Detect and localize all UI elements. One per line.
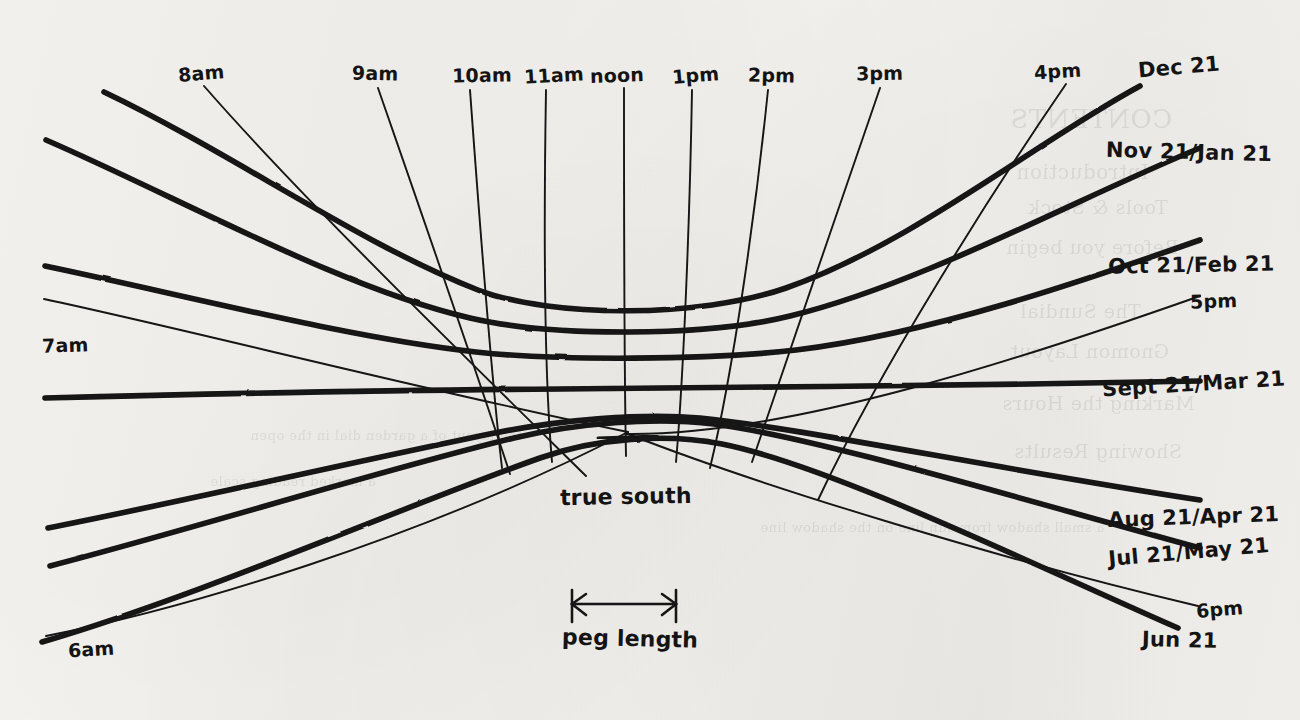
declination-curve-sept21-mar21[interactable] xyxy=(45,381,1200,398)
hour-line-9am[interactable] xyxy=(378,88,510,474)
declination-label-jun-21: Jun 21 xyxy=(1142,627,1218,653)
sundial-diagram-page: CONTENTSIntroductionTools & StockBefore … xyxy=(0,0,1300,720)
hour-line-7am[interactable] xyxy=(44,299,628,432)
hour-line-2pm[interactable] xyxy=(710,90,768,468)
hour-label-4pm: 4pm xyxy=(1033,59,1081,84)
hour-label-noon: noon xyxy=(590,63,645,87)
hour-label-6pm: 6pm xyxy=(1195,596,1244,622)
hour-line-10am[interactable] xyxy=(470,90,502,468)
hour-line-4pm[interactable] xyxy=(818,84,1066,500)
hour-line-8am[interactable] xyxy=(204,86,586,476)
diagram-ink xyxy=(0,0,1300,720)
hour-label-6am: 6am xyxy=(67,637,115,662)
declination-curve-group xyxy=(42,86,1200,642)
true-south-label: true south xyxy=(560,483,692,510)
hour-label-2pm: 2pm xyxy=(748,63,796,86)
hour-label-5pm: 5pm xyxy=(1190,289,1238,313)
hour-label-3pm: 3pm xyxy=(856,62,904,85)
hour-label-9am: 9am xyxy=(352,61,399,84)
hour-label-7am: 7am xyxy=(42,333,89,357)
hour-line-11am[interactable] xyxy=(545,90,552,462)
declination-curve-oct21-feb21[interactable] xyxy=(45,240,1200,358)
declination-label-oct-21-feb-21: Oct 21/Feb 21 xyxy=(1108,252,1275,279)
declination-curve-dec21[interactable] xyxy=(104,86,1140,311)
hour-label-1pm: 1pm xyxy=(671,62,720,88)
peg-length-arrow-group xyxy=(572,590,676,622)
hour-label-10am: 10am xyxy=(452,63,512,86)
hour-label-8am: 8am xyxy=(177,60,225,86)
peg-length-label: peg length xyxy=(562,624,699,653)
hour-line-1pm[interactable] xyxy=(676,90,692,462)
hour-label-11am: 11am xyxy=(523,62,584,88)
hour-line-5pm[interactable] xyxy=(626,296,1200,434)
hour-line-noon[interactable] xyxy=(624,88,626,456)
declination-label-nov-21-jan-21: Nov 21/Jan 21 xyxy=(1106,138,1273,166)
